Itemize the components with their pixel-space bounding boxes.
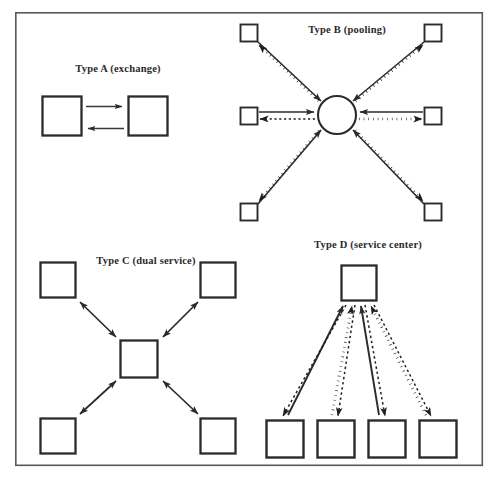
- type-b-node-top-left: [241, 25, 258, 42]
- type-d-outbound-arrows: [283, 305, 431, 416]
- type-b-node-mid-left: [241, 108, 258, 125]
- type-b-node-top-right: [425, 25, 442, 42]
- type-b-inbound-top-right: [353, 42, 424, 101]
- type-d-outbound-1: [283, 305, 346, 416]
- type-b-inbound-bottom-right: [353, 130, 424, 204]
- diagram-canvas: Type A (exchange) Type B (pooling): [0, 0, 493, 478]
- type-d-outbound-3: [365, 305, 385, 416]
- type-b-inbound-top-left: [258, 42, 321, 101]
- type-c-link-top-left: [80, 302, 116, 337]
- type-d-outbound-2: [338, 305, 355, 416]
- type-d-inbound-1: [288, 306, 343, 415]
- type-a-label: Type A (exchange): [75, 63, 161, 75]
- type-c-node-bottom-left: [41, 419, 76, 454]
- type-a-left-square: [43, 97, 82, 136]
- type-d-service-center-square: [342, 266, 377, 301]
- type-c-node-top-right: [201, 263, 236, 298]
- type-d-inbound-4: [371, 306, 426, 415]
- type-b-outbound-bottom-left: [259, 127, 322, 201]
- type-b-inbound-bottom-left: [258, 130, 321, 204]
- type-b-outbound-top-left: [259, 45, 322, 104]
- type-c-node-top-left: [41, 263, 76, 298]
- type-c-node-bottom-right: [201, 419, 236, 454]
- panel-type-c: Type C (dual service): [41, 255, 236, 454]
- type-b-pool-circle: [318, 96, 356, 134]
- type-b-node-mid-right: [425, 108, 442, 125]
- type-c-link-bottom-left: [80, 381, 116, 414]
- type-b-outbound-bottom-right: [352, 127, 423, 201]
- type-d-node-4: [420, 421, 457, 458]
- type-b-label: Type B (pooling): [308, 24, 386, 36]
- type-d-inbound-3: [361, 306, 379, 415]
- type-a-right-square: [129, 97, 168, 136]
- panel-type-a: Type A (exchange): [43, 63, 168, 136]
- type-d-inbound-arrows: [288, 306, 426, 415]
- type-d-node-2: [318, 421, 355, 458]
- type-b-node-bottom-left: [241, 204, 258, 221]
- type-c-label: Type C (dual service): [96, 255, 196, 267]
- type-d-label: Type D (service center): [314, 239, 422, 251]
- type-b-outbound-top-right: [352, 45, 423, 104]
- type-c-center-square: [121, 341, 158, 378]
- type-c-link-bottom-right: [163, 381, 198, 414]
- panel-type-d: Type D (service center): [267, 239, 457, 458]
- panel-type-b: Type B (pooling): [241, 24, 442, 221]
- type-d-node-3: [369, 421, 406, 458]
- type-b-node-bottom-right: [425, 204, 442, 221]
- type-c-link-top-right: [163, 302, 198, 337]
- diagram-svg: Type A (exchange) Type B (pooling): [0, 0, 493, 478]
- type-d-node-1: [267, 421, 304, 458]
